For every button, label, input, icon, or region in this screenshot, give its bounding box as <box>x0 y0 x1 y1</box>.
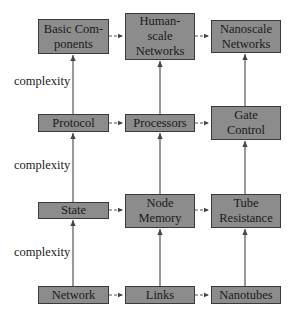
node-basic-components: Basic Com- ponents <box>38 19 109 54</box>
node-gate-control: Gate Control <box>211 106 281 140</box>
node-tube-resistance: Tube Resistance <box>211 194 281 228</box>
node-protocol: Protocol <box>38 114 109 132</box>
complexity-label-middle: complexity <box>14 158 70 173</box>
node-network: Network <box>38 286 109 304</box>
complexity-label-upper: complexity <box>14 74 70 89</box>
node-nanotubes: Nanotubes <box>211 286 281 304</box>
complexity-label-lower: complexity <box>14 245 70 260</box>
node-nanoscale-networks: Nanoscale Networks <box>211 20 281 53</box>
node-links: Links <box>125 286 195 304</box>
node-processors: Processors <box>125 114 195 132</box>
node-node-memory: Node Memory <box>125 194 195 228</box>
node-human-scale-networks: Human- scale Networks <box>125 13 195 60</box>
node-state: State <box>38 202 109 219</box>
